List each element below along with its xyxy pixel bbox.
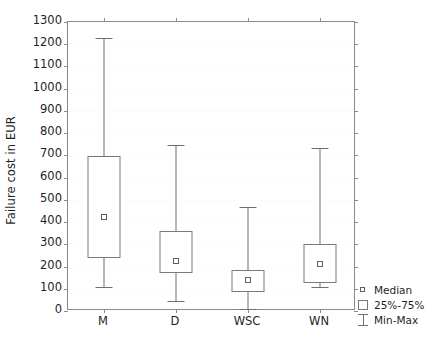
median-marker bbox=[173, 258, 179, 264]
y-axis-tick-mark-right bbox=[354, 44, 358, 45]
y-axis-title: Failure cost in EUR bbox=[0, 0, 22, 341]
x-axis-tick-mark-top bbox=[104, 18, 105, 22]
y-axis-tick-mark-right bbox=[354, 200, 358, 201]
gridline bbox=[68, 133, 354, 134]
x-axis-tick-label-m: M bbox=[98, 314, 108, 328]
x-axis-tick-mark bbox=[104, 309, 105, 313]
y-axis-tick-mark-right bbox=[354, 267, 358, 268]
lower-whisker-line bbox=[248, 292, 249, 309]
y-axis-tick-label: 500 bbox=[20, 193, 62, 205]
iqr-box bbox=[88, 156, 121, 257]
y-axis-tick-mark-right bbox=[354, 89, 358, 90]
y-axis-tick-label: 200 bbox=[20, 260, 62, 272]
y-axis-tick-mark bbox=[64, 289, 68, 290]
ibeam-part bbox=[358, 325, 368, 326]
x-axis-tick-mark bbox=[176, 309, 177, 313]
upper-whisker-line bbox=[104, 38, 105, 157]
max-whisker-cap bbox=[96, 38, 113, 39]
y-axis-tick-mark bbox=[64, 200, 68, 201]
y-axis-tick-label: 1000 bbox=[20, 82, 62, 94]
y-axis-tick-mark bbox=[64, 267, 68, 268]
y-axis-tick-mark-right bbox=[354, 133, 358, 134]
iqr-box bbox=[160, 231, 193, 273]
legend-item: Min-Max bbox=[356, 313, 418, 327]
minmax-ibeam-icon bbox=[356, 313, 370, 327]
min-whisker-cap bbox=[312, 287, 329, 288]
legend-label: Median bbox=[374, 285, 412, 296]
x-axis-tick-label-wn: WN bbox=[309, 314, 329, 328]
plot-area bbox=[67, 21, 355, 310]
y-axis-tick-mark bbox=[64, 44, 68, 45]
y-axis-tick-mark bbox=[64, 155, 68, 156]
y-axis-tick-label: 700 bbox=[20, 149, 62, 161]
y-axis-tick-mark-right bbox=[354, 22, 358, 23]
lower-whisker-line bbox=[104, 258, 105, 287]
y-axis-tick-mark bbox=[64, 89, 68, 90]
max-whisker-cap bbox=[240, 207, 257, 208]
legend-label: 25%-75% bbox=[374, 300, 424, 311]
y-axis-tick-mark bbox=[64, 244, 68, 245]
median-marker bbox=[317, 261, 323, 267]
upper-whisker-line bbox=[320, 148, 321, 245]
y-axis-tick-label: 900 bbox=[20, 104, 62, 116]
y-axis-tick-mark bbox=[64, 22, 68, 23]
gridline bbox=[68, 44, 354, 45]
y-axis-tick-label: 0 bbox=[20, 304, 62, 316]
x-axis-tick-mark bbox=[320, 309, 321, 313]
gridline bbox=[68, 89, 354, 90]
y-axis-tick-mark bbox=[64, 133, 68, 134]
y-axis-tick-label: 1200 bbox=[20, 37, 62, 49]
y-axis-tick-label: 1300 bbox=[20, 15, 62, 27]
legend-item: Median bbox=[356, 283, 412, 297]
y-axis-tick-mark bbox=[64, 222, 68, 223]
y-axis-tick-label: 300 bbox=[20, 238, 62, 250]
max-whisker-cap bbox=[168, 145, 185, 146]
y-axis-tick-mark bbox=[64, 178, 68, 179]
y-axis-tick-mark-right bbox=[354, 111, 358, 112]
y-axis-tick-labels: 0100200300400500600700800900100011001200… bbox=[20, 0, 62, 341]
y-axis-tick-mark-right bbox=[354, 222, 358, 223]
max-whisker-cap bbox=[312, 148, 329, 149]
gridline bbox=[68, 289, 354, 290]
median-marker bbox=[101, 214, 107, 220]
y-axis-tick-label: 800 bbox=[20, 126, 62, 138]
x-axis-tick-label-wsc: WSC bbox=[234, 314, 261, 328]
iqr-square-icon bbox=[356, 298, 370, 312]
chart-legend: Median25%-75%Min-Max bbox=[356, 283, 431, 328]
min-whisker-cap bbox=[168, 301, 185, 302]
legend-item: 25%-75% bbox=[356, 298, 424, 312]
gridline bbox=[68, 66, 354, 67]
y-axis-tick-label: 1100 bbox=[20, 60, 62, 72]
median-square-icon bbox=[356, 283, 370, 297]
legend-label: Min-Max bbox=[374, 315, 418, 326]
ibeam-part bbox=[358, 314, 368, 315]
x-axis-tick-mark-top bbox=[176, 18, 177, 22]
y-axis-tick-label: 100 bbox=[20, 282, 62, 294]
x-axis-tick-mark-top bbox=[320, 18, 321, 22]
y-axis-tick-mark-right bbox=[354, 155, 358, 156]
y-axis-tick-mark bbox=[64, 66, 68, 67]
y-axis-tick-mark-right bbox=[354, 244, 358, 245]
lower-whisker-line bbox=[176, 273, 177, 301]
y-axis-tick-mark bbox=[64, 311, 68, 312]
y-axis-tick-mark bbox=[64, 111, 68, 112]
upper-whisker-line bbox=[176, 145, 177, 231]
x-axis-tick-label-d: D bbox=[171, 314, 180, 328]
y-axis-tick-mark-right bbox=[354, 66, 358, 67]
y-axis-tick-label: 400 bbox=[20, 215, 62, 227]
min-whisker-cap bbox=[240, 309, 257, 310]
y-axis-tick-mark-right bbox=[354, 178, 358, 179]
gridline bbox=[68, 111, 354, 112]
y-axis-tick-label: 600 bbox=[20, 171, 62, 183]
median-marker bbox=[245, 277, 251, 283]
min-whisker-cap bbox=[96, 287, 113, 288]
x-axis-tick-mark-top bbox=[248, 18, 249, 22]
x-axis-tick-labels: MDWSCWN bbox=[67, 314, 355, 334]
upper-whisker-line bbox=[248, 207, 249, 270]
box-plot-chart: Failure cost in EUR 01002003004005006007… bbox=[0, 0, 431, 341]
